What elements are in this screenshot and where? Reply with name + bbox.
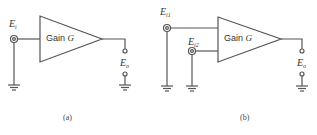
label-sub: i bbox=[15, 24, 17, 30]
gain-text: Gain bbox=[46, 33, 68, 43]
coax-input-center-icon bbox=[13, 38, 16, 41]
label-sub: i1 bbox=[166, 12, 171, 18]
coax-input2-center-icon bbox=[191, 50, 194, 53]
output-terminal-icon bbox=[300, 49, 304, 53]
ground-symbol-icon bbox=[186, 86, 198, 91]
output-ground-terminal-icon bbox=[123, 72, 127, 76]
label-sub: i2 bbox=[194, 42, 199, 48]
ground-symbol-icon bbox=[119, 85, 131, 90]
label-sub: o bbox=[303, 63, 306, 69]
output-label-eo: Eo bbox=[297, 57, 306, 69]
panel-b-circuit bbox=[161, 17, 308, 91]
caption-a: (a) bbox=[63, 113, 72, 122]
output-wire-a bbox=[102, 39, 125, 49]
ground-symbol-icon bbox=[296, 86, 308, 91]
amplifier-label-b: Gain G bbox=[224, 33, 252, 43]
input-label-ei: Ei bbox=[9, 18, 17, 30]
output-label-eo: Eo bbox=[120, 57, 129, 69]
amplifier-label-a: Gain G bbox=[46, 33, 74, 43]
caption-b: (b) bbox=[240, 113, 249, 122]
coax-input2-terminal-icon bbox=[189, 48, 196, 55]
input-label-ei2: Ei2 bbox=[188, 36, 199, 48]
gain-variable: G bbox=[68, 33, 75, 43]
gain-variable: G bbox=[246, 33, 253, 43]
circuit-diagram bbox=[0, 0, 317, 135]
label-sub: o bbox=[126, 63, 129, 69]
coax-input-terminal-icon bbox=[11, 36, 18, 43]
input-label-ei1: Ei1 bbox=[160, 6, 171, 18]
output-terminal-icon bbox=[123, 49, 127, 53]
output-wire-b bbox=[281, 39, 302, 49]
ground-symbol-icon bbox=[161, 86, 173, 91]
ground-symbol-icon bbox=[8, 85, 20, 90]
coax-input1-center-icon bbox=[166, 27, 169, 30]
coax-input1-terminal-icon bbox=[164, 25, 171, 32]
output-ground-terminal-icon bbox=[300, 72, 304, 76]
panel-a-circuit bbox=[8, 16, 131, 90]
gain-text: Gain bbox=[224, 33, 246, 43]
